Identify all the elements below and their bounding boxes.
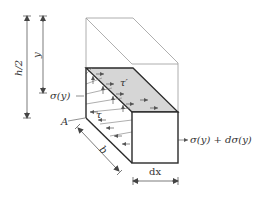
beam-element-diagram: h/2 y σ(y) τ τ′ A b σ(y) + dσ(y) dx — [0, 0, 265, 204]
label-A: A — [60, 116, 68, 127]
label-b: b — [97, 144, 109, 156]
A-leader — [68, 118, 85, 121]
label-tau: τ — [96, 109, 102, 120]
label-y: y — [31, 52, 42, 59]
dimension-h-half — [23, 16, 31, 118]
label-h-half: h/2 — [13, 60, 24, 76]
label-dx: dx — [149, 166, 161, 177]
label-tau-prime: τ′ — [120, 77, 129, 88]
shaded-cut-face — [86, 68, 178, 112]
label-sigma-left: σ(y) — [50, 90, 70, 101]
label-sigma-right: σ(y) + dσ(y) — [190, 134, 252, 145]
dimension-dx — [133, 177, 178, 185]
